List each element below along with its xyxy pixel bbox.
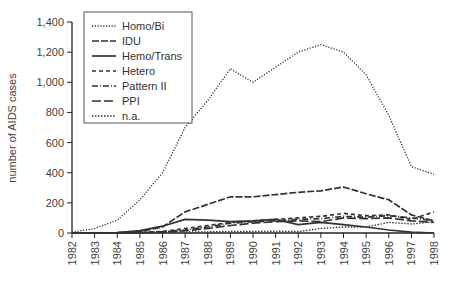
legend-label: PPI — [122, 95, 140, 107]
x-tick-label: 1993 — [315, 241, 327, 265]
x-tick-label: 1994 — [338, 241, 350, 265]
legend: Homo/BiIDUHemo/TransHeteroPattern IIPPIn… — [84, 12, 192, 123]
x-axis: 1982198319841985198619871988198919901991… — [66, 233, 440, 265]
series-line-idu — [72, 187, 434, 233]
x-tick-label: 1985 — [134, 241, 146, 265]
x-tick-label: 1982 — [66, 241, 78, 265]
x-tick-label: 1987 — [179, 241, 191, 265]
legend-label: Pattern II — [122, 80, 167, 92]
y-tick-label: 1,400 — [36, 16, 64, 28]
aids-cases-chart: 02004006008001,0001,2001,400 19821983198… — [0, 0, 456, 282]
x-tick-label: 1991 — [270, 241, 282, 265]
x-tick-label: 1998 — [428, 241, 440, 265]
x-tick-label: 1997 — [405, 241, 417, 265]
y-tick-label: 1,000 — [36, 76, 64, 88]
x-tick-label: 1983 — [89, 241, 101, 265]
y-tick-label: 400 — [46, 167, 64, 179]
y-axis: 02004006008001,0001,2001,400 — [36, 16, 72, 239]
y-tick-label: 0 — [58, 227, 64, 239]
y-tick-label: 1,200 — [36, 46, 64, 58]
x-tick-label: 1986 — [157, 241, 169, 265]
y-tick-label: 800 — [46, 106, 64, 118]
legend-label: IDU — [122, 35, 141, 47]
x-tick-label: 1989 — [224, 241, 236, 265]
legend-label: Hemo/Trans — [122, 50, 183, 62]
x-tick-label: 1984 — [111, 241, 123, 265]
y-tick-label: 600 — [46, 137, 64, 149]
x-tick-label: 1995 — [360, 241, 372, 265]
y-axis-title: number of AIDS cases — [6, 73, 18, 183]
legend-label: Homo/Bi — [122, 20, 164, 32]
legend-label: n.a. — [122, 110, 140, 122]
legend-label: Hetero — [122, 65, 155, 77]
x-tick-label: 1996 — [383, 241, 395, 265]
y-tick-label: 200 — [46, 197, 64, 209]
x-tick-label: 1990 — [247, 241, 259, 265]
x-tick-label: 1988 — [202, 241, 214, 265]
x-tick-label: 1992 — [292, 241, 304, 265]
